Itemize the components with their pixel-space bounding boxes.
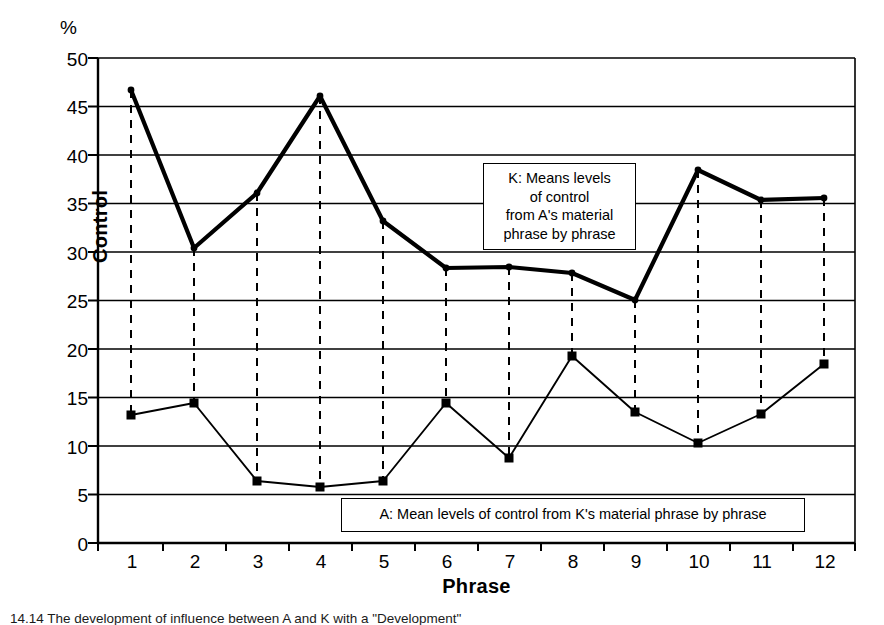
y-tick-marks [88, 58, 98, 543]
annotation-k-line2: of control [490, 188, 629, 207]
series-k-line [128, 87, 828, 304]
series-a-markers [127, 352, 829, 492]
annotation-k-line4: phrase by phrase [490, 225, 629, 244]
pair-connectors [131, 90, 824, 487]
annotation-k-line3: from A's material [490, 206, 629, 225]
series-a-line [127, 352, 829, 492]
annotation-a-line1: A: Mean levels of control from K's mater… [350, 505, 796, 524]
series-k-markers [128, 87, 828, 304]
figure-caption: 14.14 The development of influence betwe… [10, 611, 874, 625]
annotation-k-line1: K: Means levels [490, 169, 629, 188]
annotation-box-a: A: Mean levels of control from K's mater… [341, 498, 805, 532]
annotation-box-k: K: Means levels of control from A's mate… [483, 163, 636, 250]
figure-container: % Control Phrase 50 45 40 35 30 25 20 15… [0, 0, 884, 625]
